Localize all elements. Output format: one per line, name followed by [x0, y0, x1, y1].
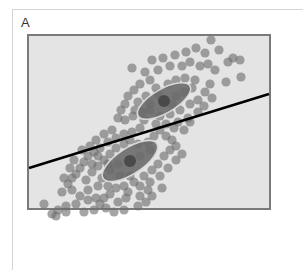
data-point [221, 77, 230, 86]
data-point [185, 99, 194, 108]
data-point [65, 163, 74, 172]
data-point [81, 175, 90, 184]
data-point [206, 35, 215, 44]
data-point [210, 65, 219, 74]
data-point [109, 207, 118, 216]
data-point [190, 75, 199, 84]
data-point [67, 185, 76, 194]
data-point [165, 61, 174, 70]
data-point [61, 207, 70, 216]
data-point [51, 211, 60, 220]
data-point [79, 207, 88, 216]
data-point [207, 93, 216, 102]
data-point [57, 187, 66, 196]
data-point [39, 199, 48, 208]
data-point [107, 125, 116, 134]
data-point [93, 181, 102, 190]
data-point [69, 155, 78, 164]
data-point [135, 123, 144, 132]
data-point [140, 67, 149, 76]
data-point [101, 203, 110, 212]
data-point [119, 205, 128, 214]
data-point [180, 73, 189, 82]
data-point [179, 125, 188, 134]
data-point [135, 181, 144, 190]
data-point [185, 57, 194, 66]
data-point [75, 191, 84, 200]
data-point [177, 149, 186, 158]
data-point [159, 151, 168, 160]
data-point [191, 43, 200, 52]
data-point [147, 55, 156, 64]
data-point [83, 195, 92, 204]
cluster-center-marker [158, 95, 170, 107]
data-point [199, 101, 208, 110]
data-point [158, 53, 167, 62]
data-point [83, 185, 92, 194]
data-point [111, 183, 120, 192]
data-point [235, 55, 244, 64]
data-point [200, 87, 209, 96]
data-point [116, 105, 125, 114]
data-point [113, 197, 122, 206]
data-point [99, 129, 108, 138]
data-point [103, 181, 112, 190]
data-point [170, 50, 179, 59]
data-point [123, 187, 132, 196]
data-point [59, 173, 68, 182]
data-point [147, 165, 156, 174]
data-point [177, 61, 186, 70]
data-point [145, 75, 154, 84]
data-point [153, 65, 162, 74]
data-point [155, 171, 164, 180]
data-point [145, 177, 154, 186]
cluster-center-marker [124, 155, 136, 167]
data-point [93, 151, 102, 160]
data-point [195, 61, 204, 70]
data-point [200, 48, 209, 57]
data-point [205, 79, 214, 88]
data-point [157, 183, 166, 192]
data-point [214, 45, 223, 54]
data-point [123, 91, 132, 100]
data-point [120, 115, 129, 124]
data-point [91, 193, 100, 202]
data-point [163, 163, 172, 172]
data-point [127, 63, 136, 72]
data-point [135, 191, 144, 200]
data-point [236, 72, 245, 81]
data-point [71, 199, 80, 208]
data-point [111, 143, 120, 152]
data-point [203, 59, 212, 68]
data-point [87, 159, 96, 168]
data-point [133, 201, 142, 210]
data-point [181, 47, 190, 56]
